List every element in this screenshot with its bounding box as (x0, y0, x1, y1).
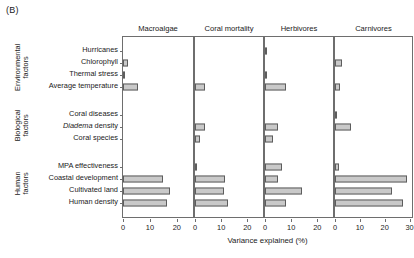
bar (195, 136, 200, 143)
x-tick-label: 0 (121, 223, 125, 232)
panel-title-carnivores: Carnivores (335, 24, 412, 33)
bar (123, 60, 128, 67)
category-label-human-density: Human density (34, 198, 118, 206)
category-label-hurricanes: Hurricanes (34, 46, 118, 54)
x-tick (221, 219, 222, 222)
x-tick (177, 219, 178, 222)
bar (195, 124, 205, 131)
bar (265, 48, 267, 55)
x-tick-label: 20 (381, 223, 389, 232)
x-tick-label: 10 (356, 223, 364, 232)
x-tick (150, 219, 151, 222)
bar (265, 176, 278, 183)
y-tick (120, 127, 123, 128)
category-label-coral-diseases: Coral diseases (34, 110, 118, 118)
bar (335, 200, 403, 207)
x-tick (247, 219, 248, 222)
category-label-average-temperature: Average temperature (34, 82, 118, 90)
x-tick-label: 10 (217, 223, 225, 232)
bar (335, 164, 339, 171)
x-tick (123, 219, 124, 222)
bar (335, 60, 342, 67)
bar (195, 200, 228, 207)
bar (265, 136, 273, 143)
category-label-thermal-stress: Thermal stress (34, 70, 118, 78)
group-label-environmental: Environmentalfactors (14, 35, 31, 99)
y-tick (120, 63, 123, 64)
x-tick (335, 219, 336, 222)
x-axis-title: Variance explained (%) (122, 236, 413, 245)
panel-macroalgae: Macroalgae01020 (122, 36, 194, 218)
bar (123, 84, 138, 91)
group-label-human: Humanfactors (14, 151, 31, 215)
bar (195, 176, 225, 183)
panel-herbivores: Herbivores01020 (264, 36, 334, 218)
x-tick-label: 10 (287, 223, 295, 232)
bar (123, 188, 170, 195)
bar (265, 188, 302, 195)
y-tick (120, 203, 123, 204)
panel-title-herbivores: Herbivores (265, 24, 333, 33)
y-tick (120, 51, 123, 52)
x-tick-label: 20 (243, 223, 251, 232)
x-tick-label: 0 (333, 223, 337, 232)
y-tick (120, 139, 123, 140)
category-label-coral-species: Coral species (34, 134, 118, 142)
bar (335, 188, 392, 195)
bar (123, 72, 125, 79)
bar (195, 164, 197, 171)
bar (265, 72, 267, 79)
y-tick (120, 87, 123, 88)
bar (335, 84, 340, 91)
x-tick-label: 0 (193, 223, 197, 232)
panel-coral-mortality: Coral mortality01020 (194, 36, 264, 218)
x-tick-label: 0 (263, 223, 267, 232)
bar (335, 124, 351, 131)
y-tick (120, 75, 123, 76)
bar (335, 176, 407, 183)
panel-letter: (B) (6, 5, 19, 15)
category-label-coastal-development: Coastal development (34, 174, 118, 182)
bar (335, 112, 337, 119)
x-tick-label: 20 (313, 223, 321, 232)
bar (265, 124, 278, 131)
x-tick (291, 219, 292, 222)
bar (195, 84, 205, 91)
x-tick (410, 219, 411, 222)
x-tick (195, 219, 196, 222)
category-label-mpa-effectiveness: MPA effectiveness (34, 162, 118, 170)
bar (123, 176, 163, 183)
group-label-biological: Biologicalfactors (14, 93, 31, 157)
x-tick-label: 30 (405, 223, 413, 232)
y-tick (120, 115, 123, 116)
x-tick (265, 219, 266, 222)
x-tick (360, 219, 361, 222)
category-label-diadema-density: Diadema density (34, 122, 118, 130)
y-tick (120, 191, 123, 192)
category-label-cultivated-land: Cultivated land (34, 186, 118, 194)
bar (123, 200, 167, 207)
x-tick (317, 219, 318, 222)
x-tick-label: 10 (146, 223, 154, 232)
y-tick (120, 179, 123, 180)
category-label-chlorophyll: Chlorophyll (34, 58, 118, 66)
panel-title-coral-mortality: Coral mortality (195, 24, 263, 33)
bar (265, 200, 286, 207)
panel-title-macroalgae: Macroalgae (123, 24, 193, 33)
panel-carnivores: Carnivores0102030 (334, 36, 413, 218)
plot-area: Macroalgae01020Coral mortality01020Herbi… (122, 36, 413, 218)
category-label-column: HurricanesChlorophyllThermal stressAvera… (34, 36, 118, 218)
bar (265, 84, 286, 91)
bar (265, 164, 282, 171)
bar (195, 188, 224, 195)
y-tick (120, 167, 123, 168)
x-tick (385, 219, 386, 222)
x-tick-label: 20 (173, 223, 181, 232)
